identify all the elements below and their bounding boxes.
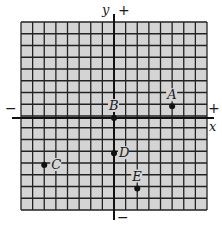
y-positive-sign: + (118, 2, 130, 18)
x-positive-sign: + (208, 100, 220, 116)
point-e-marker (134, 186, 140, 192)
point-d-label: D (118, 145, 130, 160)
point-b-label: B (108, 98, 119, 113)
point-d-marker (111, 150, 117, 156)
x-negative-sign: − (5, 100, 17, 116)
x-axis-label: x (209, 119, 217, 134)
y-axis-label: y (101, 2, 110, 17)
coordinate-plane: y + − − + x ABCDE (0, 0, 222, 227)
point-a-marker (169, 103, 175, 109)
y-negative-sign: − (117, 209, 129, 225)
point-b-marker (111, 115, 117, 121)
point-c-label: C (51, 157, 61, 172)
point-a-label: A (166, 87, 176, 102)
point-e-label: E (131, 169, 142, 184)
point-c-marker (41, 162, 47, 168)
